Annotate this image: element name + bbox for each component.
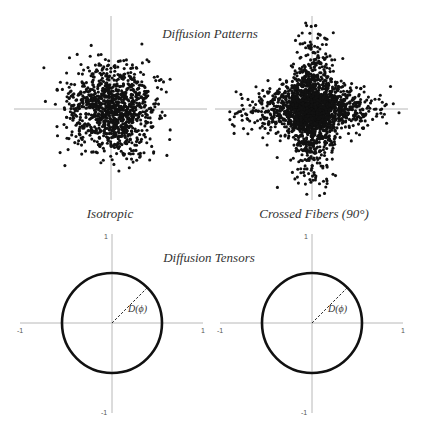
scatter-point [91, 80, 94, 83]
scatter-point [65, 100, 68, 103]
scatter-point [278, 78, 281, 81]
scatter-point [261, 136, 264, 139]
scatter-point [239, 110, 242, 113]
scatter-point [320, 75, 323, 78]
scatter-point [340, 101, 343, 104]
scatter-point [347, 132, 350, 135]
scatter-point [98, 131, 101, 134]
scatter-point [309, 80, 312, 83]
scatter-point [300, 148, 303, 151]
scatter-point [345, 112, 348, 115]
scatter-point [380, 108, 383, 111]
scatter-point [308, 32, 311, 35]
scatter-point [273, 114, 276, 117]
scatter-point [312, 171, 315, 174]
scatter-point [357, 115, 360, 118]
scatter-point [275, 92, 278, 95]
scatter-point [319, 96, 322, 99]
scatter-point [106, 64, 109, 67]
scatter-point [342, 82, 345, 85]
scatter-point [306, 149, 309, 152]
scatter-point [353, 105, 356, 108]
scatter-point [94, 64, 97, 67]
scatter-point [163, 114, 166, 117]
scatter-point [331, 95, 334, 98]
scatter-point [301, 85, 304, 88]
scatter-point [288, 96, 291, 99]
scatter-point [61, 88, 64, 91]
scatter-point [246, 132, 249, 135]
scatter-point [70, 104, 73, 107]
scatter-point [100, 95, 103, 98]
scatter-point [322, 180, 325, 183]
scatter-point [273, 97, 276, 100]
scatter-point [316, 99, 319, 102]
scatter-point [351, 118, 354, 121]
scatter-point [143, 90, 146, 93]
scatter-point [334, 86, 337, 89]
scatter-point [94, 97, 97, 100]
scatter-point [342, 90, 345, 93]
scatter-point [301, 159, 304, 162]
scatter-point [251, 100, 254, 103]
scatter-point [72, 114, 75, 117]
scatter-point [324, 57, 327, 60]
scatter-point [119, 59, 122, 62]
scatter-point [86, 66, 89, 69]
scatter-point [77, 139, 80, 142]
scatter-point [276, 156, 279, 159]
scatter-point [324, 185, 327, 188]
scatter-point [328, 116, 331, 119]
scatter-point [117, 169, 120, 172]
scatter-point [122, 83, 125, 86]
scatter-point [68, 86, 71, 89]
scatter-point [103, 96, 106, 99]
scatter-point [318, 156, 321, 159]
scatter-point [107, 59, 110, 62]
scatter-point [301, 92, 304, 95]
scatter-point [335, 100, 338, 103]
scatter-point [87, 106, 90, 109]
scatter-point [96, 140, 99, 143]
scatter-point [318, 33, 321, 36]
diffusion-tensors-title: Diffusion Tensors [162, 250, 255, 265]
scatter-point [328, 54, 331, 57]
scatter-point [309, 149, 312, 152]
scatter-point [326, 88, 329, 91]
scatter-point [367, 110, 370, 113]
scatter-point [96, 114, 99, 117]
scatter-point [290, 90, 293, 93]
scatter-point [323, 192, 326, 195]
scatter-point [56, 89, 59, 92]
scatter-point [333, 138, 336, 141]
scatter-point [156, 75, 159, 78]
scatter-point [80, 153, 83, 156]
scatter-point [143, 105, 146, 108]
scatter-point [108, 92, 111, 95]
scatter-point [313, 122, 316, 125]
scatter-point [124, 125, 127, 128]
scatter-point [328, 143, 331, 146]
scatter-point [133, 106, 136, 109]
scatter-point [321, 43, 324, 46]
scatter-point [131, 96, 134, 99]
scatter-point [112, 98, 115, 101]
scatter-point [150, 109, 153, 112]
scatter-point [157, 103, 160, 106]
scatter-point [323, 37, 326, 40]
scatter-point [254, 85, 257, 88]
scatter-point [364, 114, 367, 117]
scatter-point [306, 53, 309, 56]
scatter-point [107, 124, 110, 127]
tick-x-max-isotropic: 1 [201, 327, 205, 334]
scatter-point [397, 111, 400, 114]
scatter-point [330, 129, 333, 132]
scatter-point [309, 58, 312, 61]
scatter-point [303, 79, 306, 82]
scatter-point [309, 155, 312, 158]
scatter-point [102, 87, 105, 90]
scatter-point [161, 111, 164, 114]
scatter-point [359, 101, 362, 104]
scatter-point [286, 87, 289, 90]
scatter-point [111, 95, 114, 98]
